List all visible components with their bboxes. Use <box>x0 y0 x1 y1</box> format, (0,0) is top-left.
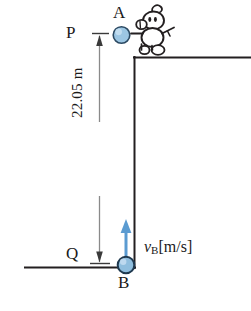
figure-canvas <box>0 0 251 311</box>
velocity-units: [m/s] <box>158 238 192 255</box>
character-torso-icon <box>142 28 164 47</box>
dimension-arrowhead-up <box>96 35 103 46</box>
character-figure <box>131 5 174 54</box>
character-eye-right-icon <box>154 17 157 22</box>
ball-a-group <box>113 27 130 44</box>
character-arm-right-fork <box>168 31 171 36</box>
wall-outline <box>25 57 250 268</box>
point-label-b: B <box>118 274 129 291</box>
height-dimension-label: 22.05 m <box>70 67 85 118</box>
character-eye-left-icon <box>148 17 151 22</box>
ball-a <box>113 27 130 44</box>
character-ear-icon <box>136 20 147 29</box>
point-label-a: A <box>113 4 125 21</box>
point-label-p: P <box>66 24 75 41</box>
point-label-q: Q <box>66 245 78 262</box>
ball-b-highlight <box>120 259 126 265</box>
ball-b-group <box>118 257 135 274</box>
velocity-arrowhead <box>121 219 132 233</box>
ball-b <box>118 257 135 274</box>
velocity-label: vB[m/s] <box>144 239 192 256</box>
dimension-group <box>90 34 110 264</box>
character-leg-right <box>152 46 153 51</box>
ball-a-highlight <box>115 28 122 35</box>
character-foot-right-icon <box>152 45 165 55</box>
physics-figure: A B P Q 22.05 m vB[m/s] <box>0 0 251 311</box>
dimension-arrowhead-down <box>96 252 103 263</box>
